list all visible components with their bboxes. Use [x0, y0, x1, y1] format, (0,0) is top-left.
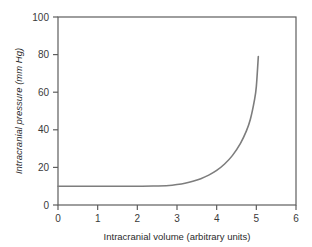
y-tick-label: 80: [38, 49, 50, 60]
plot-area-background: [58, 17, 296, 205]
y-axis-tick-labels: 020406080100: [32, 12, 49, 211]
x-tick-label: 5: [254, 213, 260, 224]
chart-page: 020406080100 0123456 Intracranial volume…: [0, 0, 312, 247]
x-tick-label: 2: [135, 213, 141, 224]
y-tick-label: 60: [38, 87, 50, 98]
y-tick-label: 100: [32, 12, 49, 23]
x-axis-tick-labels: 0123456: [55, 213, 299, 224]
y-axis-ticks: [53, 17, 58, 205]
y-tick-label: 40: [38, 124, 50, 135]
x-tick-label: 1: [95, 213, 101, 224]
x-tick-label: 3: [174, 213, 180, 224]
y-tick-label: 0: [43, 200, 49, 211]
x-tick-label: 6: [293, 213, 299, 224]
x-axis-title: Intracranial volume (arbitrary units): [104, 231, 251, 242]
x-tick-label: 0: [55, 213, 61, 224]
y-axis-title: Intracranial pressure (mm Hg): [13, 48, 24, 174]
x-axis-ticks: [58, 205, 296, 210]
intracranial-pressure-volume-chart: 020406080100 0123456 Intracranial volume…: [0, 0, 312, 247]
y-tick-label: 20: [38, 162, 50, 173]
x-tick-label: 4: [214, 213, 220, 224]
